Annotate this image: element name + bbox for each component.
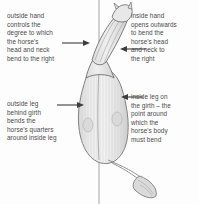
annotation-inside-hand: inside hand opens outwards to bend the h… bbox=[131, 12, 195, 64]
diagram-page: outside hand controls the degree to whic… bbox=[0, 0, 199, 204]
horse-head bbox=[112, 2, 132, 22]
horse-tail bbox=[108, 160, 156, 198]
annotation-outside-leg: outside leg behind girth bends the horse… bbox=[7, 100, 73, 143]
hip-marking-left bbox=[83, 118, 93, 132]
annotation-outside-hand: outside hand controls the degree to whic… bbox=[7, 12, 69, 64]
annotation-inside-leg: inside leg on the girth – the point arou… bbox=[131, 93, 195, 145]
horse-body bbox=[78, 68, 128, 164]
hip-marking-right bbox=[112, 112, 122, 126]
